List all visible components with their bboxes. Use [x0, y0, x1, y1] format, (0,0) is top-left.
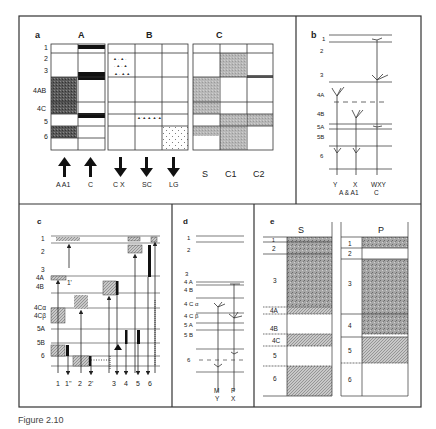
panel-b-layer-labels: 1 2 3 4A 4B 5A 5B 6: [317, 36, 326, 159]
row-label: 1: [44, 44, 48, 51]
layer-label: 4A: [317, 92, 324, 98]
col-label: C X: [113, 181, 125, 188]
panel-c-arrows: [58, 244, 155, 373]
layer-label: 4B: [270, 325, 278, 332]
row-label: 3: [44, 67, 48, 74]
cell-type-label: C: [374, 189, 379, 196]
layer-label: 1: [187, 235, 191, 241]
layer-label: 3: [273, 277, 277, 284]
cell-label: Y: [333, 181, 338, 188]
layer-label: 4A: [270, 307, 279, 314]
cell-label: WXY: [371, 181, 386, 188]
column-label: 2: [78, 380, 82, 387]
layer-label: 5A: [37, 325, 46, 332]
column-s-title: S: [298, 225, 304, 235]
layer-label: 4A: [36, 274, 45, 281]
col-label: S: [202, 169, 208, 179]
row-label: 6: [44, 133, 48, 140]
cell-type-label: Y: [215, 395, 220, 402]
column-p-layer-labels: 1 2 3 4 5 6: [348, 240, 352, 383]
layer-label: 1: [322, 36, 326, 42]
annotation-1-prime: 1': [67, 279, 72, 286]
layer-label: 1: [348, 240, 352, 247]
group-b-title: B: [146, 30, 153, 40]
panel-b-label: b: [311, 30, 317, 40]
layer-label: 4 C α: [184, 301, 199, 307]
col-label: C2: [253, 169, 265, 179]
panel-a-arrows: [58, 157, 180, 177]
layer-label: 3: [41, 266, 45, 273]
column-label: 4: [124, 380, 128, 387]
layer-label: 4C: [272, 337, 281, 344]
layer-label: 1: [272, 237, 275, 243]
cell-type-label: A & A1: [339, 189, 359, 196]
column-p: 1 2 3 4 5 6: [341, 222, 408, 396]
panel-c-layer-labels: 1 2 3 4A 4B 4Cα 4Cβ 5A 5B 6: [34, 235, 46, 359]
panel-b-bottom-labels: Y X WXY A & A1 C: [333, 181, 386, 196]
layer-label: 6: [41, 352, 45, 359]
layer-label: 5B: [317, 134, 324, 140]
col-label: A A1: [56, 181, 71, 188]
layer-label: 3: [348, 280, 352, 287]
layer-label: 6: [320, 153, 324, 159]
column-label: 1: [56, 380, 60, 387]
layer-label: 4B: [317, 111, 324, 117]
layer-label: 4B: [36, 283, 44, 290]
col-label: SC: [142, 181, 152, 188]
layer-label: 2: [272, 245, 276, 252]
arrow-down-icon: [140, 157, 153, 177]
layer-label: 3: [185, 271, 189, 277]
svg-text:▲·▲ ▲ ▲·▲: ▲·▲ ▲ ▲·▲: [137, 115, 162, 120]
triangle-marker-icon: [114, 344, 122, 350]
col-label: C: [88, 181, 93, 188]
group-c-title: C: [216, 30, 223, 40]
layer-label: 4: [348, 322, 352, 329]
panel-d-bottom-labels: M P Y X: [214, 387, 236, 402]
column-label: 2': [88, 380, 93, 387]
row-label: 4AB: [33, 87, 47, 94]
column-label: 1'': [65, 380, 72, 387]
layer-label: 4 B: [184, 287, 193, 293]
figure-caption: Figure 2.10: [18, 415, 64, 425]
layer-label: 5 B: [184, 332, 193, 338]
panel-e: e S P 1 2: [263, 217, 408, 396]
layer-label: 4 C β: [184, 313, 199, 319]
col-label: LG: [169, 181, 178, 188]
layer-label: 5B: [37, 339, 45, 346]
column-label: 3: [112, 380, 116, 387]
column-s-layer-labels: 1 2 3 4A 4B 4C 5 6: [270, 237, 281, 382]
layer-label: 6: [348, 376, 352, 383]
svg-text:▲ . ▲ ▲: ▲ . ▲ ▲: [114, 71, 130, 76]
panel-b-layer-lines: [329, 35, 392, 169]
panel-a-label: a: [35, 30, 41, 40]
svg-text:. ▲ . ▲: . ▲ . ▲: [114, 63, 128, 68]
layer-label: 4Cβ: [34, 312, 46, 320]
panel-c: c 1 2 3 4A 4B 4Cα 4Cβ 5A 5B 6: [34, 217, 160, 387]
row-label: 5: [44, 118, 48, 125]
panel-d-label: d: [183, 217, 188, 226]
arrow-up-icon: [58, 157, 71, 177]
layer-label: 5A: [317, 124, 324, 130]
arrow-down-icon: [167, 157, 180, 177]
col-label: C1: [225, 169, 237, 179]
grid-group-b: ▲ . ▲ . . ▲ . ▲ ▲ . ▲ ▲ ▲·▲ ▲ ▲·▲: [108, 44, 188, 150]
cell-type-label: X: [231, 395, 236, 402]
svg-text:▲ . ▲ .: ▲ . ▲ .: [113, 56, 126, 61]
column-label: 6: [148, 380, 152, 387]
layer-label: 5 A: [184, 322, 193, 328]
layer-label: 6: [187, 357, 191, 363]
panel-d-neurons: [214, 284, 242, 392]
arrow-down-icon: [114, 157, 127, 177]
panel-d: d 1 2 3 4 A 4 B 4 C α 4 C β 5 A 5 B 6: [183, 217, 244, 402]
panel-b: b 1 2 3 4A 4B 5A 5B 6: [311, 30, 392, 196]
row-label: 2: [44, 55, 48, 62]
panel-c-label: c: [37, 217, 42, 226]
column-s: 1 2 3 4A 4B 4C 5 6: [263, 222, 332, 396]
layer-label: 5: [348, 347, 352, 354]
panel-b-neurons: [332, 38, 388, 175]
panel-d-layer-labels: 1 2 3 4 A 4 B 4 C α 4 C β 5 A 5 B 6: [184, 235, 199, 363]
layer-label: 2: [41, 248, 45, 255]
panel-a: a A B C 1 2 3 4AB 4C 5 6: [33, 30, 273, 188]
layer-label: 2: [320, 48, 324, 54]
layer-label: 6: [273, 375, 277, 382]
